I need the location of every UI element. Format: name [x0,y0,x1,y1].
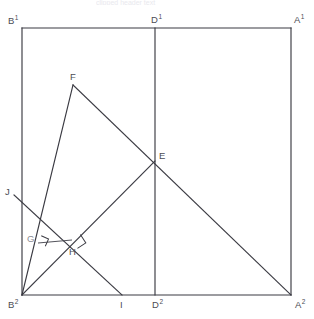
vertex-label-H: H [69,246,76,257]
vertex-label-D2: D2 [152,298,163,310]
line-F-to-A2 [73,85,291,295]
vertex-label-I-base: I [120,299,123,310]
vertex-label-D1-base: D [151,14,158,25]
right-angle-at-G [38,236,49,247]
vertex-label-D1-superscript: 1 [158,13,162,20]
vertex-label-B1-base: B [8,15,14,26]
vertex-label-I: I [120,299,123,310]
vertex-label-A1: A1 [294,13,305,25]
line-B2-to-E [22,161,155,295]
vertex-label-B2-superscript: 2 [15,298,19,305]
vertex-label-D1: D1 [151,13,162,25]
vertex-label-D2-base: D [152,299,159,310]
line-B2-to-F [22,85,73,295]
segments-layer [14,28,291,295]
vertex-label-A2: A2 [295,298,306,310]
clipped-header-artifact: clipped header text [96,0,246,5]
segment-G-to-H [38,240,72,243]
vertex-label-A2-superscript: 2 [302,298,306,305]
vertex-label-B2: B2 [8,298,19,310]
vertex-label-A1-superscript: 1 [301,13,305,20]
vertex-label-J: J [5,186,10,197]
vertex-label-B2-base: B [8,299,14,310]
vertex-label-E-base: E [159,150,165,161]
vertex-label-G: G [27,233,34,244]
geometry-figure: B1D1A1B2D2A2EFGHIJ [0,0,314,319]
vertex-label-F-base: F [70,71,76,82]
vertex-label-B1: B1 [8,14,19,26]
vertex-label-E: E [159,150,165,161]
vertex-label-H-base: H [69,246,76,257]
vertex-label-J-base: J [5,186,10,197]
right-angle-markers-layer [38,235,86,249]
diagram-canvas: clipped header text B1D1A1B2D2A2EFGHIJ [0,0,314,319]
vertex-label-B1-superscript: 1 [15,14,19,21]
vertex-label-F: F [70,71,76,82]
vertex-label-D2-superscript: 2 [159,298,163,305]
vertex-label-G-base: G [27,233,34,244]
